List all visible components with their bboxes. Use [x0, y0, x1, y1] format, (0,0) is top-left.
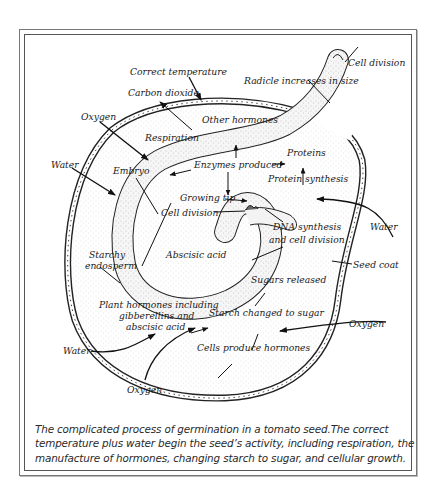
label-cells-produce: Cells produce hormones — [197, 342, 311, 353]
label-water-right: Water — [370, 221, 398, 232]
label-oxygen-right: Oxygen — [349, 318, 384, 329]
label-respiration: Respiration — [144, 132, 199, 143]
label-cell-division-mid: Cell division — [161, 207, 218, 218]
label-embryo: Embryo — [112, 165, 150, 176]
label-proteins: Proteins — [286, 147, 326, 158]
label-plant-hormones-2: gibberellins and — [119, 310, 195, 321]
label-correct-temperature: Correct temperature — [130, 66, 228, 77]
label-oxygen-bottom: Oxygen — [127, 384, 162, 395]
label-protein-synthesis: Protein synthesis — [267, 173, 349, 184]
label-growing-tip: Growing tip — [180, 192, 235, 203]
label-dna-synthesis-1: DNA synthesis — [272, 221, 341, 232]
label-water-left: Water — [51, 159, 79, 170]
label-oxygen-top-left: Oxygen — [81, 111, 116, 122]
label-other-hormones: Other hormones — [202, 114, 278, 125]
caption-line-2: temperature plus water begin the seed’s … — [35, 436, 410, 450]
label-abscisic-acid: Abscisic acid — [165, 249, 227, 260]
caption-line-1: The complicated process of germination i… — [35, 422, 410, 436]
label-carbon-dioxide: Carbon dioxide — [128, 87, 200, 98]
label-starch-changed: Starch changed to sugar — [209, 307, 325, 318]
label-plant-hormones-3: abscisic acid — [126, 321, 185, 332]
label-enzymes-produced: Enzymes produced — [193, 159, 283, 170]
label-dna-synthesis-2: and cell division — [269, 234, 345, 245]
label-plant-hormones-1: Plant hormones including — [98, 299, 219, 310]
caption-line-3: manufacture of hormones, changing starch… — [35, 451, 410, 465]
label-starchy-2: endosperm — [85, 260, 137, 271]
label-starchy-1: Starchy — [89, 249, 126, 260]
label-radicle-increases: Radicle increases in size — [243, 75, 359, 86]
label-cell-division-top: Cell division — [348, 57, 405, 68]
label-seed-coat: Seed coat — [353, 259, 399, 270]
label-sugars-released: Sugars released — [251, 274, 326, 285]
label-water-bottom-left: Water — [63, 345, 91, 356]
figure-caption: The complicated process of germination i… — [35, 422, 410, 465]
